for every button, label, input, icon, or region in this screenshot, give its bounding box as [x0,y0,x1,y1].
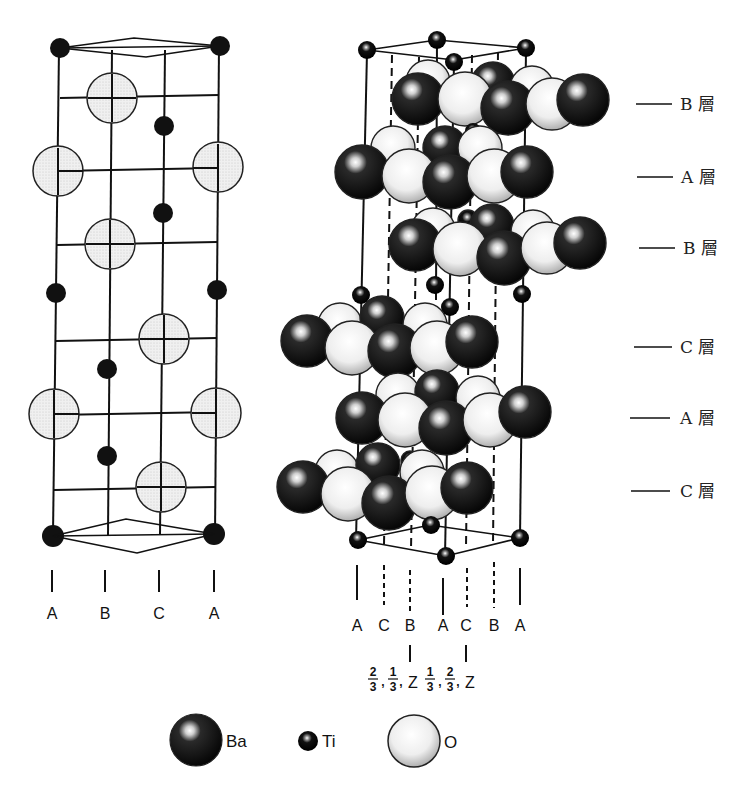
bottom-basal-rhombus [53,519,214,553]
svg-text:Ba: Ba [226,732,247,751]
ti-sphere-icon [298,731,318,751]
coordinate-label-first: 2 3 , 1 3 , Z [368,665,418,694]
svg-text:3: 3 [390,680,397,694]
layer-c-upper [281,296,498,378]
svg-text:,: , [399,675,402,689]
layer-label-5: A 層 [679,408,715,428]
right-column-label-1: A [352,617,363,634]
crystal-structure-diagram: A B C A [0,0,743,796]
layer-label-2: A 層 [680,167,716,187]
svg-text:,: , [438,675,441,689]
svg-text:2: 2 [370,665,377,679]
horizontal-layer-lines [54,95,219,490]
right-column-label-2: C [378,617,390,634]
layer-b-top [392,60,609,135]
svg-text:Z: Z [465,674,475,691]
right-column-label-7: A [515,617,526,634]
o-sphere-icon [388,715,440,767]
svg-text:1: 1 [390,665,397,679]
barium-atoms-left [42,36,230,547]
right-column-label-5: C [460,617,472,634]
right-column-ticks [357,565,520,662]
layer-a-upper [335,126,553,209]
layer-b-middle [389,204,606,285]
svg-text:Ti: Ti [322,732,336,751]
svg-text:Z: Z [408,674,418,691]
left-column-label-a2: A [209,605,220,622]
svg-text:3: 3 [447,680,454,694]
legend: Ba Ti O [170,714,457,767]
legend-item-ti: Ti [298,731,336,751]
svg-text:1: 1 [427,665,434,679]
top-basal-rhombus [60,38,220,57]
right-column-label-4: A [438,617,449,634]
top-frame [367,40,526,60]
svg-text:2: 2 [447,665,454,679]
svg-text:O: O [444,733,457,752]
left-unit-cell: A B C A [29,36,243,622]
svg-text:3: 3 [370,680,377,694]
ba-sphere-icon [170,714,222,766]
layer-a-lower [336,370,551,455]
right-column-label-3: B [405,617,416,634]
svg-text:3: 3 [427,680,434,694]
coordinate-label-second: 1 3 , 2 3 , Z [425,665,475,694]
left-column-label-a1: A [47,605,58,622]
svg-text:,: , [381,675,384,689]
svg-text:,: , [456,675,459,689]
right-unit-cell: A C B A C B A 2 3 , 1 3 , Z 1 3 , 2 3 , … [277,31,609,694]
layer-label-3: B 層 [683,238,718,258]
layer-label-1: B 層 [680,94,715,114]
layer-labels: B 層 A 層 B 層 C 層 A 層 C 層 [630,94,718,501]
left-column-label-b: B [100,605,111,622]
left-column-ticks [52,570,214,592]
legend-item-ba: Ba [170,714,247,766]
layer-c-lower [277,443,493,530]
layer-label-4: C 層 [680,337,715,357]
right-column-label-6: B [489,617,500,634]
layer-label-6: C 層 [680,481,715,501]
vertical-axis-lines [53,46,219,535]
legend-item-o: O [388,715,457,767]
left-column-label-c: C [153,605,165,622]
